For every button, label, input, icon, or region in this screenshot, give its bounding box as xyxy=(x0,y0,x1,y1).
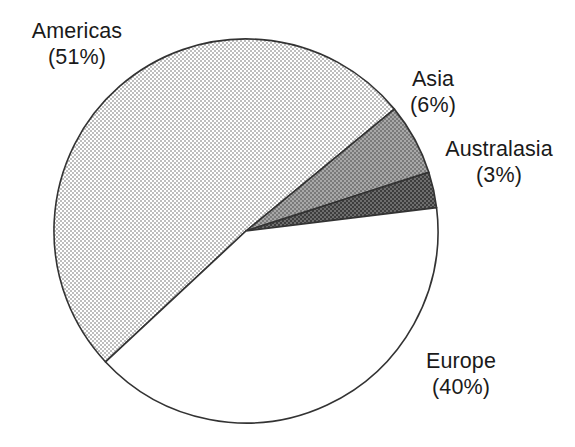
pie-chart-figure: Americas (51%) Asia (6%) Australasia (3%… xyxy=(0,0,575,447)
pie-label-americas: Americas (51%) xyxy=(2,18,152,70)
pie-label-europe-name: Europe xyxy=(396,348,526,374)
pie-label-americas-name: Americas xyxy=(2,18,152,44)
pie-label-asia-name: Asia xyxy=(378,66,488,92)
pie-label-europe-value: (40%) xyxy=(396,374,526,400)
pie-label-asia-value: (6%) xyxy=(378,92,488,118)
pie-label-australasia: Australasia (3%) xyxy=(420,136,575,188)
pie-label-asia: Asia (6%) xyxy=(378,66,488,118)
pie-label-americas-value: (51%) xyxy=(2,44,152,70)
pie-label-australasia-name: Australasia xyxy=(420,136,575,162)
pie-label-europe: Europe (40%) xyxy=(396,348,526,400)
pie-label-australasia-value: (3%) xyxy=(420,162,575,188)
